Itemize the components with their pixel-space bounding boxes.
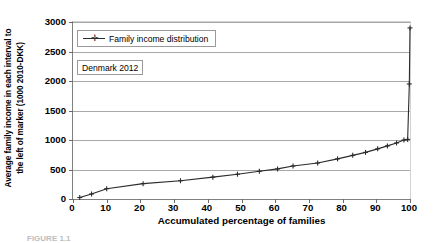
x-axis-tick-label: 60	[269, 202, 280, 213]
figure-caption: FIGURE 1.1	[27, 234, 427, 242]
x-axis-title: Accumulated percentage of families	[72, 215, 411, 226]
data-point-marker	[405, 137, 410, 142]
data-point-marker	[408, 25, 413, 30]
x-axis-tick-label: 10	[100, 202, 111, 213]
data-point-marker	[385, 143, 390, 148]
data-series-family-income-distribution	[73, 22, 410, 199]
plot-area	[72, 21, 411, 200]
plus-marker-icon: ✛	[91, 35, 98, 42]
x-axis-tick-label: 80	[336, 202, 347, 213]
data-point-marker	[77, 195, 82, 200]
data-point-marker	[178, 178, 183, 183]
series-line	[80, 28, 410, 198]
data-point-marker	[235, 172, 240, 177]
annotation-box-denmark-2012: Denmark 2012	[77, 60, 143, 75]
data-point-marker	[401, 138, 406, 143]
data-point-marker	[350, 153, 355, 158]
y-axis-tick-label: 2500	[45, 45, 66, 56]
annotation-label: Denmark 2012	[82, 63, 138, 73]
data-point-marker	[141, 181, 146, 186]
y-axis-title: Average family income in each interval t…	[0, 0, 34, 215]
figure-container: Average family income in each interval t…	[0, 0, 439, 243]
x-axis-tick-label: 40	[201, 202, 212, 213]
data-point-marker	[315, 161, 320, 166]
data-point-marker	[275, 166, 280, 171]
y-axis-tick-label: 1000	[45, 134, 66, 145]
y-axis-tick-labels: 050010001500200025003000	[33, 0, 69, 215]
y-axis-tick-label: 3000	[45, 16, 66, 27]
x-axis-tick-label: 90	[370, 202, 381, 213]
y-axis-tick-label: 0	[61, 193, 66, 204]
y-axis-title-line-2: the left of marker (1000 2010-DKK)	[15, 4, 27, 212]
data-point-marker	[291, 163, 296, 168]
x-axis-tick-label: 100	[401, 202, 417, 213]
y-axis-tick-label: 500	[50, 163, 66, 174]
x-axis-tick-label: 30	[168, 202, 179, 213]
x-axis-tick-label: 20	[134, 202, 145, 213]
x-axis-tick-label: 50	[235, 202, 246, 213]
y-axis-tick-label: 2000	[45, 75, 66, 86]
data-point-marker	[363, 150, 368, 155]
data-point-marker	[335, 156, 340, 161]
chart-legend: ✛ Family income distribution	[77, 30, 216, 47]
y-axis-tick-label: 1500	[45, 104, 66, 115]
legend-entry-label: Family income distribution	[109, 34, 208, 44]
data-point-marker	[89, 191, 94, 196]
data-point-marker	[394, 140, 399, 145]
y-axis-title-line-1: Average family income in each interval t…	[3, 4, 15, 212]
x-axis-tick-label: 0	[69, 202, 74, 213]
data-point-marker	[375, 146, 380, 151]
data-point-marker	[104, 186, 109, 191]
data-point-marker	[257, 169, 262, 174]
x-axis-tick-label: 70	[303, 202, 314, 213]
x-axis-tick-labels: 0102030405060708090100	[72, 202, 411, 216]
legend-key-swatch: ✛	[83, 34, 105, 44]
data-point-marker	[407, 81, 412, 86]
data-point-marker	[210, 175, 215, 180]
